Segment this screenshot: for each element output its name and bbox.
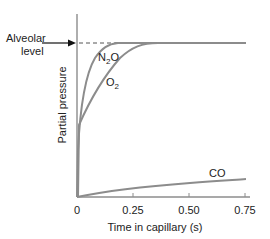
n2o-curve (77, 43, 118, 197)
co-label: CO (209, 167, 226, 179)
x-tick-label-0.50: 0.50 (178, 204, 199, 216)
x-axis-label: Time in capillary (s) (108, 221, 203, 233)
o2-label: O2 (106, 76, 120, 91)
x-tick-label-0: 0 (74, 204, 80, 216)
y-axis-label: Partial pressure (56, 66, 68, 143)
x-tick-label-0.75: 0.75 (234, 204, 255, 216)
x-tick-label-0.25: 0.25 (122, 204, 143, 216)
co-curve (77, 179, 246, 197)
o2-curve (78, 43, 158, 197)
annotation-line2: level (21, 45, 44, 57)
chart: Alveolar level N2O O2 CO 0 0.25 0.50 0.7… (0, 0, 270, 239)
arrow-head-icon (68, 40, 76, 47)
annotation-line1: Alveolar (6, 32, 46, 44)
